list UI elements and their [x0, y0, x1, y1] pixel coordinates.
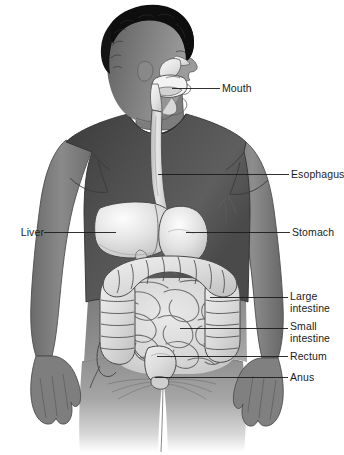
label-stomach: Stomach — [292, 227, 334, 239]
label-small-intestine: Small intestine — [290, 321, 330, 344]
label-mouth: Mouth — [222, 83, 252, 95]
anus-organ — [151, 377, 169, 390]
label-esophagus: Esophagus — [291, 169, 344, 181]
label-rectum: Rectum — [290, 351, 327, 363]
label-large-intestine: Large intestine — [290, 291, 330, 314]
label-anus: Anus — [290, 372, 314, 384]
digestive-system-figure: Mouth Esophagus Liver Stomach Large inte… — [0, 0, 344, 455]
label-liver: Liver — [0, 227, 44, 239]
